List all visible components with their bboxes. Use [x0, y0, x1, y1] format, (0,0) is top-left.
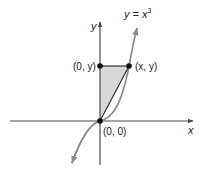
point-label-0-y: (0, y): [73, 61, 96, 72]
point-origin: [97, 118, 103, 124]
point-label-origin: (0, 0): [103, 126, 126, 137]
cubic-area-diagram: y = x3 y x (0, y) (x, y) (0, 0): [0, 0, 201, 172]
cubic-curve-tail: [72, 121, 100, 163]
curve-label: y = x3: [123, 7, 152, 20]
point-0-y: [97, 63, 103, 69]
y-axis-label: y: [90, 20, 98, 32]
x-axis-label: x: [187, 124, 194, 136]
point-label-x-y: (x, y): [135, 61, 157, 72]
point-x-y: [126, 63, 132, 69]
